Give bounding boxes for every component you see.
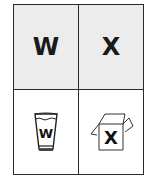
cell-picture-box: X (79, 90, 143, 174)
letter-x: X (79, 33, 143, 61)
letter-picture-grid: W X W X (13, 4, 144, 175)
letter-w: W (14, 33, 78, 61)
cell-picture-cup: W (14, 90, 79, 174)
svg-text:W: W (39, 126, 53, 141)
box-icon: X (87, 110, 135, 154)
svg-text:X: X (104, 127, 118, 148)
cup-icon: W (33, 111, 59, 153)
cell-letter-w: W (14, 5, 79, 90)
cell-letter-x: X (79, 5, 143, 90)
